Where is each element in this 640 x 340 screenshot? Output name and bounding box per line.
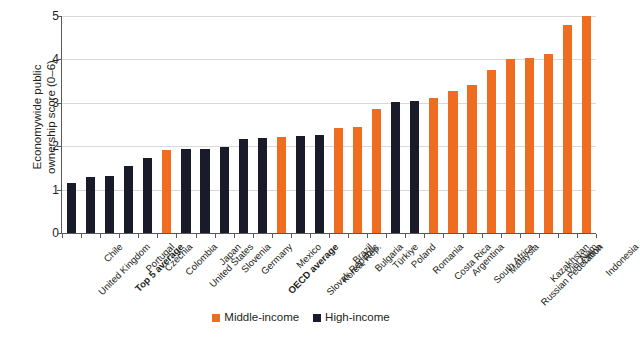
x-tick-mark [424,234,425,238]
x-tick-mark [596,234,597,238]
gridline-5 [62,16,596,17]
x-tick-mark [482,234,483,238]
bar[interactable] [487,70,496,233]
x-tick-mark [234,234,235,238]
y-axis-title-container: Economywide public ownership score (0–6) [0,0,34,240]
x-tick-mark [329,234,330,238]
y-axis-title: Economywide public ownership score (0–6) [30,2,58,232]
legend-item[interactable]: Middle-income [212,311,299,323]
x-tick-mark [463,234,464,238]
gridline-1 [62,190,596,191]
bar[interactable] [353,127,362,233]
bar[interactable] [334,128,343,233]
x-tick-mark [176,234,177,238]
bar[interactable] [67,183,76,233]
bar[interactable] [277,137,286,233]
x-tick-mark [405,234,406,238]
bar[interactable] [563,25,572,233]
bar[interactable] [315,135,324,233]
x-tick-mark [215,234,216,238]
gridline-3 [62,103,596,104]
x-axis-label: Chile [101,241,124,264]
legend-swatch-middle-income [212,314,220,322]
bar[interactable] [258,138,267,233]
legend-swatch-high-income [313,314,321,322]
bar[interactable] [239,139,248,233]
x-tick-mark [520,234,521,238]
x-axis-label: Indonesia [603,241,640,278]
gridline-4 [62,59,596,60]
bar[interactable] [391,102,400,233]
bar[interactable] [467,85,476,233]
x-tick-mark [253,234,254,238]
gridline-2 [62,146,596,147]
x-tick-mark [577,234,578,238]
bar[interactable] [544,54,553,233]
x-tick-mark [443,234,444,238]
x-tick-mark [62,234,63,238]
bar[interactable] [296,136,305,233]
bar[interactable] [410,101,419,233]
x-tick-mark [81,234,82,238]
x-tick-mark [386,234,387,238]
x-tick-mark [348,234,349,238]
legend-label: High-income [325,311,390,323]
bar[interactable] [200,149,209,233]
bar[interactable] [372,109,381,233]
bar[interactable] [429,98,438,233]
bar[interactable] [448,91,457,233]
x-tick-mark [558,234,559,238]
x-tick-mark [138,234,139,238]
plot-area [62,16,596,233]
bar[interactable] [86,177,95,233]
bar[interactable] [582,16,591,233]
x-tick-mark [119,234,120,238]
bar[interactable] [143,158,152,233]
bar[interactable] [105,176,114,233]
x-tick-mark [539,234,540,238]
bar[interactable] [181,149,190,233]
x-tick-mark [501,234,502,238]
x-tick-mark [100,234,101,238]
bar[interactable] [220,147,229,233]
x-tick-mark [367,234,368,238]
bar[interactable] [124,166,133,233]
x-tick-mark [196,234,197,238]
y-axis-line [61,16,62,234]
bar[interactable] [525,58,534,233]
x-tick-mark [291,234,292,238]
bar[interactable] [162,150,171,233]
legend-label: Middle-income [224,311,299,323]
x-tick-mark [157,234,158,238]
x-tick-mark [272,234,273,238]
x-tick-mark [310,234,311,238]
bar[interactable] [506,59,515,233]
legend-item[interactable]: High-income [313,311,390,323]
chart-legend: Middle-incomeHigh-income [0,310,602,323]
